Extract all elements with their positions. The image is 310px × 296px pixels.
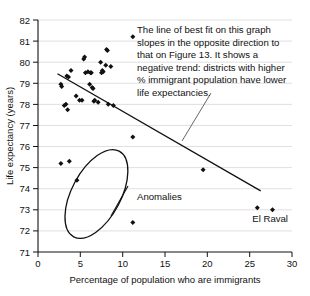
y-tick-label: 71	[19, 247, 30, 258]
commentary-line: negative trend: districts with higher	[137, 62, 286, 73]
y-tick-label: 76	[19, 141, 30, 152]
y-tick-label: 73	[19, 204, 30, 215]
x-axis-title: Percentage of population who are immigra…	[69, 274, 260, 285]
y-tick-label: 75	[19, 162, 30, 173]
y-tick-label: 81	[19, 36, 30, 47]
commentary-line: slopes in the opposite direction to	[137, 37, 279, 48]
y-tick-label: 77	[19, 120, 30, 131]
x-tick-label: 0	[35, 258, 40, 269]
x-tick-label: 5	[78, 258, 83, 269]
y-tick-label: 80	[19, 57, 30, 68]
y-tick-label: 72	[19, 225, 30, 236]
x-tick-label: 10	[117, 258, 128, 269]
scatter-chart: 82 81 80 79 78 77 76 75 74 73 72 71 0 5 …	[0, 0, 310, 296]
commentary-line: life expectancies.	[137, 87, 211, 98]
el-raval-label: El Raval	[252, 213, 288, 224]
x-tick-label: 30	[287, 258, 298, 269]
y-tick-label: 78	[19, 99, 30, 110]
commentary-line: The line of best fit on this graph	[137, 24, 271, 35]
commentary-line: % immigrant population have lower	[137, 74, 287, 85]
x-tick-label: 25	[244, 258, 255, 269]
y-axis-title: Life expectancy (years)	[4, 87, 15, 185]
commentary-line: that on Figure 13. It shows a	[137, 49, 259, 60]
y-tick-label: 74	[19, 183, 30, 194]
y-tick-label: 79	[19, 78, 30, 89]
anomalies-label: Anomalies	[137, 191, 182, 202]
chart-canvas: 82 81 80 79 78 77 76 75 74 73 72 71 0 5 …	[0, 0, 310, 296]
x-tick-label: 15	[160, 258, 171, 269]
x-tick-label: 20	[202, 258, 213, 269]
y-tick-label: 82	[19, 15, 30, 26]
